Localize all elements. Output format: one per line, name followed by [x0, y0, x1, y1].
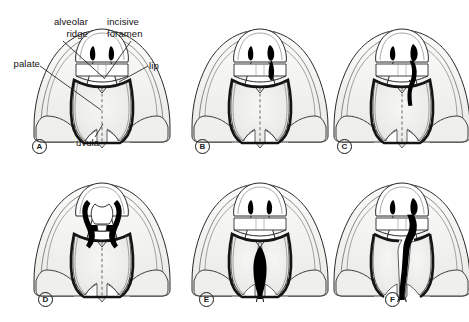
label-incisive-foramen-line1: incisive — [107, 16, 139, 27]
panel-letter-a: A — [32, 139, 47, 154]
panel-b-unilateral-cleft-lip — [192, 29, 328, 148]
label-palate: palate — [0, 58, 40, 70]
panel-e-isolated-cleft-palate — [192, 183, 328, 302]
label-alveolar-ridge-line2: ridge — [66, 28, 88, 39]
panel-letter-d: D — [38, 292, 53, 307]
panel-f-complete-unilateral-cleft-lip-and-palate — [334, 183, 469, 302]
label-uvula: uvula — [76, 137, 99, 149]
panel-letter-e: E — [199, 292, 214, 307]
cleft-lip-palate-figure — [0, 0, 469, 322]
label-incisive-foramen-line2: foramen — [107, 28, 143, 39]
label-incisive-foramen: incisive foramen — [107, 16, 143, 39]
panel-letter-f: F — [385, 292, 400, 307]
panel-a-normal — [34, 29, 170, 148]
panel-letter-c: C — [337, 139, 352, 154]
label-alveolar-ridge: alveolar ridge — [0, 16, 88, 39]
label-lip: lip — [149, 60, 159, 72]
label-alveolar-ridge-line1: alveolar — [54, 16, 88, 27]
panel-c-cleft-lip-and-alveolus — [334, 29, 469, 148]
panel-letter-b: B — [195, 139, 210, 154]
panel-d-bilateral-cleft-lip — [34, 183, 170, 302]
